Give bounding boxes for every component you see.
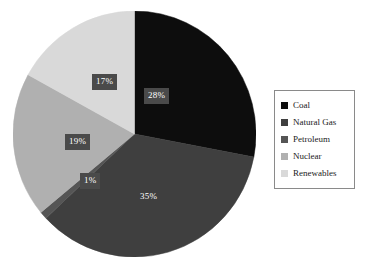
legend-item-renewables[interactable]: Renewables <box>281 165 349 182</box>
legend-swatch-icon-petroleum <box>281 136 288 143</box>
legend-label-petroleum: Petroleum <box>293 134 330 145</box>
legend-swatch-icon-coal <box>281 102 288 109</box>
legend-label-renewables: Renewables <box>293 168 336 179</box>
pie-graphic <box>13 11 256 257</box>
legend-item-coal[interactable]: Coal <box>281 97 349 114</box>
slice-label-petroleum: 1% <box>80 173 100 189</box>
legend-swatch-icon-renewables <box>281 170 288 177</box>
chart-legend: Coal Natural Gas Petroleum Nuclear Renew… <box>274 90 355 189</box>
slice-label-renewables: 17% <box>92 74 117 90</box>
legend-item-petroleum[interactable]: Petroleum <box>281 131 349 148</box>
legend-swatch-icon-nuclear <box>281 153 288 160</box>
legend-item-natural-gas[interactable]: Natural Gas <box>281 114 349 131</box>
legend-label-nuclear: Nuclear <box>293 151 321 162</box>
slice-label-natural-gas: 35% <box>140 192 157 201</box>
slice-label-nuclear: 19% <box>65 134 90 150</box>
pie-slice-group <box>13 11 256 257</box>
pie-chart-figure: 28% 35% 1% 19% 17% Coal Natural Gas Petr… <box>0 0 367 270</box>
legend-label-natural-gas: Natural Gas <box>293 117 336 128</box>
pie-slice-coal[interactable] <box>135 11 257 157</box>
pie-svg <box>13 11 256 257</box>
slice-label-coal: 28% <box>144 88 169 104</box>
legend-item-nuclear[interactable]: Nuclear <box>281 148 349 165</box>
legend-swatch-icon-natural-gas <box>281 119 288 126</box>
legend-label-coal: Coal <box>293 100 310 111</box>
